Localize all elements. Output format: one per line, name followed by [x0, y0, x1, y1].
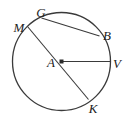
- point-label-v: V: [113, 57, 121, 70]
- point-label-g: G: [36, 6, 45, 19]
- geometry-figure: M G B V K A: [0, 0, 127, 121]
- geometry-canvas: [0, 0, 127, 121]
- point-label-k: K: [89, 102, 98, 115]
- point-label-m: M: [14, 21, 25, 34]
- center-point-dot-a: [60, 60, 64, 64]
- center-label-a: A: [47, 56, 55, 69]
- chord-segment-gb: [42, 18, 100, 36]
- point-label-b: B: [103, 29, 111, 42]
- diameter-segment-mk: [28, 27, 89, 100]
